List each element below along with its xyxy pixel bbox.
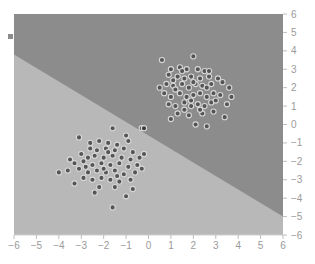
data-point bbox=[117, 161, 122, 166]
data-point bbox=[224, 102, 229, 107]
data-point bbox=[117, 179, 122, 184]
data-point bbox=[204, 124, 209, 129]
y-tick-label: 5 bbox=[291, 27, 297, 38]
data-point bbox=[135, 162, 140, 167]
x-tick-label: −6 bbox=[8, 240, 20, 251]
data-point bbox=[175, 74, 180, 79]
data-point bbox=[121, 172, 126, 177]
data-point bbox=[101, 166, 106, 171]
data-point bbox=[213, 98, 218, 103]
data-point bbox=[204, 85, 209, 90]
data-point bbox=[106, 140, 111, 145]
y-tick-label: −4 bbox=[291, 193, 303, 204]
scatter-chart: −6−5−4−3−2−10123456 6543210−1−2−3−4−5−6 bbox=[0, 0, 315, 264]
data-point bbox=[90, 177, 95, 182]
data-point bbox=[112, 168, 117, 173]
data-point bbox=[191, 92, 196, 97]
data-point bbox=[229, 94, 234, 99]
x-tick-label: −4 bbox=[53, 240, 65, 251]
data-point bbox=[126, 138, 131, 143]
x-tick-label: −3 bbox=[76, 240, 88, 251]
data-point bbox=[119, 155, 124, 160]
x-tick-label: 3 bbox=[213, 240, 219, 251]
data-point bbox=[175, 111, 180, 116]
y-tick-label: 4 bbox=[291, 45, 297, 56]
data-point bbox=[121, 146, 126, 151]
data-point bbox=[195, 67, 200, 72]
data-point bbox=[191, 80, 196, 85]
data-point bbox=[222, 115, 227, 120]
data-point bbox=[72, 181, 77, 186]
data-point bbox=[106, 150, 111, 155]
x-tick-label: −1 bbox=[120, 240, 132, 251]
data-point bbox=[115, 142, 120, 147]
y-tick-label: 2 bbox=[291, 82, 297, 93]
data-point bbox=[139, 166, 144, 171]
x-tick-label: 4 bbox=[235, 240, 241, 251]
data-point bbox=[110, 205, 115, 210]
data-point bbox=[85, 155, 90, 160]
x-tick-label: −2 bbox=[98, 240, 110, 251]
x-tick-label: 0 bbox=[146, 240, 152, 251]
data-point bbox=[180, 81, 185, 86]
data-point bbox=[173, 87, 178, 92]
data-point bbox=[168, 67, 173, 72]
data-point bbox=[168, 94, 173, 99]
data-point bbox=[88, 146, 93, 151]
y-tick-label: 0 bbox=[291, 119, 297, 130]
data-point bbox=[137, 155, 142, 160]
data-point bbox=[81, 159, 86, 164]
data-point bbox=[211, 109, 216, 114]
x-tick-label: 6 bbox=[280, 240, 286, 251]
data-point bbox=[76, 135, 81, 140]
data-point bbox=[177, 91, 182, 96]
data-point bbox=[56, 170, 61, 175]
data-point bbox=[123, 133, 128, 138]
data-point bbox=[97, 185, 102, 190]
data-point bbox=[206, 68, 211, 73]
data-point bbox=[186, 85, 191, 90]
data-point bbox=[132, 170, 137, 175]
data-point bbox=[180, 68, 185, 73]
data-point bbox=[209, 81, 214, 86]
data-point bbox=[188, 98, 193, 103]
y-tick-label: −6 bbox=[291, 230, 303, 241]
data-point bbox=[123, 194, 128, 199]
y-tick-label: 3 bbox=[291, 64, 297, 75]
data-point bbox=[168, 116, 173, 121]
x-tick-label: −5 bbox=[31, 240, 43, 251]
data-point bbox=[171, 78, 176, 83]
data-point bbox=[115, 173, 120, 178]
data-point bbox=[130, 186, 135, 191]
data-point bbox=[141, 151, 146, 156]
data-point bbox=[164, 81, 169, 86]
side-marker bbox=[8, 34, 13, 39]
data-point bbox=[72, 161, 77, 166]
data-point bbox=[112, 185, 117, 190]
data-point bbox=[227, 85, 232, 90]
data-point bbox=[97, 138, 102, 143]
x-axis: −6−5−4−3−2−10123456 bbox=[8, 235, 286, 251]
data-point bbox=[88, 140, 93, 145]
data-point bbox=[202, 103, 207, 108]
y-tick-label: 6 bbox=[291, 9, 297, 20]
y-tick-label: −2 bbox=[291, 156, 303, 167]
y-tick-label: −3 bbox=[291, 174, 303, 185]
data-point bbox=[112, 148, 117, 153]
data-point bbox=[220, 80, 225, 85]
data-point bbox=[130, 150, 135, 155]
data-point bbox=[193, 122, 198, 127]
data-point bbox=[79, 151, 84, 156]
data-point bbox=[85, 170, 90, 175]
data-point bbox=[83, 164, 88, 169]
data-point bbox=[184, 94, 189, 99]
data-point bbox=[166, 72, 171, 77]
data-point bbox=[110, 126, 115, 131]
data-point bbox=[101, 155, 106, 160]
data-point bbox=[186, 113, 191, 118]
data-point bbox=[99, 175, 104, 180]
y-tick-label: −1 bbox=[291, 137, 303, 148]
data-point bbox=[206, 74, 211, 79]
data-point bbox=[188, 103, 193, 108]
data-point bbox=[157, 85, 162, 90]
